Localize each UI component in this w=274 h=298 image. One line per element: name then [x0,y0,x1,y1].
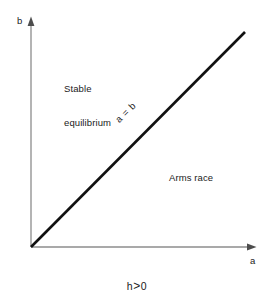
y-axis-label: b [17,15,22,26]
region-label-stable-equilibrium: Stable equilibrium [64,61,111,151]
x-axis-label: a [250,255,255,266]
caption-relation-icon: > [133,279,141,293]
region-label-stable-line1: Stable [64,83,111,94]
figure-container: b a Stable equilibrium Arms race a = b [0,0,274,298]
region-label-arms-race: Arms race [169,172,213,183]
region-label-stable-line2: equilibrium [64,117,111,128]
figure-caption: h>0 [0,279,274,293]
plot-area [0,0,274,298]
x-axis-arrowhead-icon [247,244,257,251]
caption-value: 0 [141,280,147,292]
y-axis-arrowhead-icon [28,17,35,27]
